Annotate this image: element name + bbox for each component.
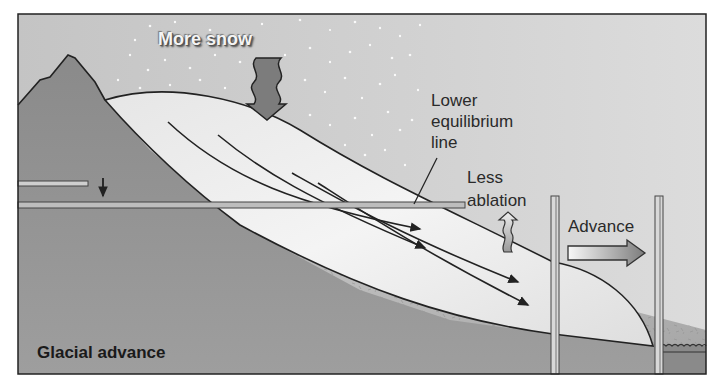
more-snow-label: More snow	[158, 30, 252, 48]
diagram-title: Glacial advance	[37, 344, 166, 361]
equilibrium-line	[18, 202, 465, 208]
label-line-3: line	[431, 132, 513, 153]
reference-post-left	[551, 196, 559, 374]
glacial-advance-diagram: More snow Lower equilibrium line Less ab…	[0, 0, 723, 386]
advance-label: Advance	[568, 218, 634, 235]
less-ablation-label: Less ablation	[467, 166, 527, 212]
lower-equilibrium-line-label: Lower equilibrium line	[431, 90, 513, 153]
lake	[660, 346, 706, 374]
label-line-1: Less	[467, 166, 527, 189]
reference-post-right	[655, 196, 663, 374]
old-equilibrium-line-marker	[18, 181, 88, 186]
label-line-1: Lower	[431, 90, 513, 111]
label-line-2: equilibrium	[431, 111, 513, 132]
label-line-2: ablation	[467, 189, 527, 212]
diagram-canvas	[0, 0, 723, 386]
